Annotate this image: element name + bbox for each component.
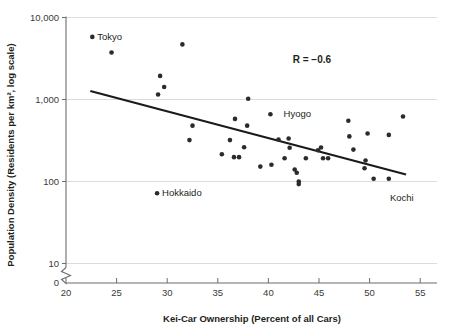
data-point [287, 145, 292, 150]
data-points [90, 35, 405, 196]
data-point [363, 158, 368, 163]
data-point [190, 123, 195, 128]
axes [62, 17, 438, 284]
y-axis-tick-labels: 101001,00010,0000 [30, 12, 59, 289]
data-point [258, 164, 263, 169]
point-labels: TokyoHyogoHokkaidoKochi [97, 31, 413, 202]
data-point [245, 123, 250, 128]
data-point [155, 191, 160, 196]
data-point [296, 182, 301, 187]
gridlines [66, 18, 437, 264]
trend-line [90, 91, 406, 174]
data-point [371, 176, 376, 181]
point-label-hyogo: Hyogo [284, 108, 311, 119]
data-point [232, 155, 237, 160]
y-tick-label-100: 100 [43, 176, 59, 187]
x-axis-title: Kei-Car Ownership (Percent of all Cars) [163, 313, 341, 324]
x-tick-label-45: 45 [314, 287, 325, 298]
data-point [220, 152, 225, 157]
data-point [304, 156, 309, 161]
data-point [237, 155, 242, 160]
data-point [346, 118, 351, 123]
annotations: R = −0.6 [293, 54, 332, 65]
trend-line-segment [90, 91, 406, 174]
data-point [162, 85, 167, 90]
annotation-correlation: R = −0.6 [293, 54, 332, 65]
data-point [282, 156, 287, 161]
x-tick-label-35: 35 [213, 287, 224, 298]
scatter-plot: 101001,00010,0000 2025303540455055 Tokyo… [0, 0, 449, 331]
x-tick-label-40: 40 [263, 287, 274, 298]
x-tick-label-30: 30 [162, 287, 173, 298]
data-point [351, 147, 356, 152]
point-label-kochi: Kochi [390, 192, 414, 203]
data-point [228, 138, 233, 143]
data-point [109, 50, 114, 55]
x-tick-label-50: 50 [364, 287, 375, 298]
chart-figure: 101001,00010,0000 2025303540455055 Tokyo… [0, 0, 449, 331]
data-point [268, 112, 273, 117]
data-point [242, 145, 247, 150]
data-point [387, 176, 392, 181]
data-point [321, 156, 326, 161]
data-point [362, 166, 367, 171]
data-point [365, 131, 370, 136]
data-point [401, 114, 406, 119]
data-point [246, 96, 251, 101]
x-tick-label-55: 55 [415, 287, 426, 298]
data-point [158, 74, 163, 79]
data-point [387, 133, 392, 138]
tick-marks [62, 18, 420, 284]
x-tick-label-25: 25 [111, 287, 122, 298]
x-tick-label-20: 20 [61, 287, 72, 298]
data-point [156, 92, 161, 97]
data-point [347, 134, 352, 139]
y-axis-zero-label: 0 [54, 277, 59, 288]
y-tick-label-10000: 10,000 [30, 12, 59, 23]
data-point [90, 35, 95, 40]
x-axis-tick-labels: 2025303540455055 [61, 287, 426, 298]
data-point [276, 137, 281, 142]
y-axis-title: Population Density (Residents per km², l… [5, 43, 16, 266]
data-point [286, 136, 291, 141]
data-point [326, 156, 331, 161]
point-label-hokkaido: Hokkaido [162, 187, 202, 198]
data-point [319, 145, 324, 150]
data-point [233, 117, 238, 122]
data-point [187, 138, 192, 143]
point-label-tokyo: Tokyo [97, 31, 122, 42]
y-tick-label-1000: 1,000 [35, 94, 59, 105]
data-point [180, 42, 185, 47]
data-point [269, 162, 274, 167]
data-point [294, 170, 299, 175]
y-tick-label-10: 10 [48, 258, 59, 269]
